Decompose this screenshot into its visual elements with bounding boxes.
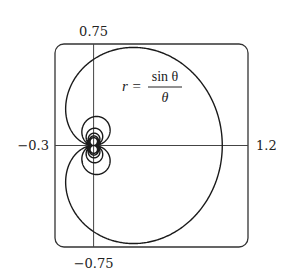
equation-denominator: θ: [162, 90, 169, 105]
polar-plot: 0.75 −0.75 −0.3 1.2 r = sin θ θ: [0, 0, 295, 279]
equation-lhs: r =: [122, 78, 142, 94]
x-max-label: 1.2: [256, 138, 277, 153]
y-min-label: −0.75: [74, 256, 114, 271]
equation-numerator: sin θ: [152, 69, 179, 84]
x-min-label: −0.3: [17, 138, 49, 153]
equation-annotation: r = sin θ θ: [122, 69, 182, 105]
y-max-label: 0.75: [79, 24, 108, 39]
